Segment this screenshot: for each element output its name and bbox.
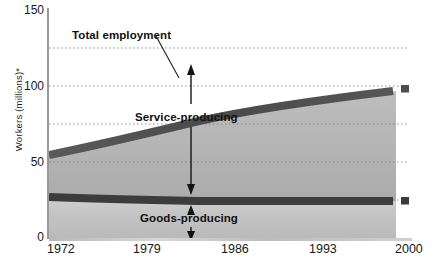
y-tick-0: 0 <box>14 231 44 243</box>
total-employment-label: Total employment <box>72 29 171 41</box>
x-tick-1986: 1986 <box>221 242 249 256</box>
x-axis-line <box>49 238 412 241</box>
x-tick-2000: 2000 <box>395 242 423 256</box>
plot-area <box>49 9 409 239</box>
service-producing-label: Service-producing <box>135 111 238 123</box>
x-tick-1972: 1972 <box>47 242 75 256</box>
y-axis-ticks: 150 100 50 0 <box>0 0 44 260</box>
employment-area-chart: Workers (millions)* 150 100 50 0 <box>0 0 438 260</box>
goods-producing-label: Goods-producing <box>140 212 238 224</box>
total-employment-leader-line <box>156 36 179 78</box>
y-tick-150: 150 <box>14 4 44 16</box>
x-tick-1979: 1979 <box>133 242 161 256</box>
y-tick-50: 50 <box>14 156 44 168</box>
x-tick-1993: 1993 <box>309 242 337 256</box>
y-tick-100: 100 <box>14 80 44 92</box>
